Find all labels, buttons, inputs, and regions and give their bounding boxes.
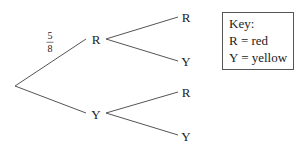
branch-r-to-r	[106, 17, 178, 39]
node-level1-y: Y	[91, 108, 100, 121]
fraction-numerator: 5	[48, 31, 53, 41]
fraction-denominator: 8	[48, 43, 53, 53]
node-level2-y-r: R	[182, 86, 191, 99]
key-entry-yellow: Y = yellow	[229, 49, 293, 66]
branch-root-to-y	[15, 86, 86, 113]
node-level2-y-y: Y	[181, 130, 190, 143]
node-level2-r-r: R	[182, 11, 191, 24]
key-title: Key:	[229, 15, 293, 32]
key-entry-red: R = red	[229, 32, 293, 49]
branch-r-to-y	[106, 39, 178, 61]
branch-y-to-y	[106, 113, 178, 135]
edge-probability-label: 5 8	[47, 31, 54, 54]
node-level1-r: R	[92, 33, 101, 46]
branch-y-to-r	[106, 92, 178, 113]
key-legend: Key: R = red Y = yellow	[222, 12, 294, 70]
node-level2-r-y: Y	[181, 55, 190, 68]
tree-diagram: 5 8 R Y R Y R Y Key: R = red Y = yellow	[0, 0, 297, 152]
